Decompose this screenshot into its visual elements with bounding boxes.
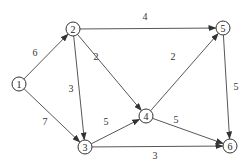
node-5: 5 xyxy=(216,21,230,35)
edge-1-3 xyxy=(24,89,80,142)
node-6: 6 xyxy=(223,139,237,153)
graph-diagram: 6743252553 123456 xyxy=(0,0,250,167)
edge-3-4 xyxy=(91,119,139,143)
edge-line xyxy=(77,34,141,110)
edge-weight-label: 6 xyxy=(33,47,38,58)
edge-2-5 xyxy=(80,28,216,29)
node-label: 6 xyxy=(228,141,233,152)
nodes-layer: 123456 xyxy=(12,21,237,154)
edge-weight-label: 3 xyxy=(69,83,74,94)
edge-weight-label: 4 xyxy=(143,11,148,22)
node-label: 4 xyxy=(144,111,149,122)
edge-weight-label: 2 xyxy=(171,51,176,62)
edge-weight-label: 3 xyxy=(153,150,158,161)
edge-line xyxy=(223,35,229,139)
node-2: 2 xyxy=(66,22,80,36)
edge-5-6 xyxy=(223,35,229,139)
edge-line xyxy=(151,34,218,111)
node-label: 1 xyxy=(17,79,22,90)
edge-weight-label: 7 xyxy=(43,116,48,127)
node-4: 4 xyxy=(139,109,153,123)
edge-4-5 xyxy=(151,34,218,111)
edge-line xyxy=(153,118,223,143)
edge-2-4 xyxy=(77,34,141,110)
edge-weight-label: 5 xyxy=(104,116,109,127)
node-3: 3 xyxy=(78,140,92,154)
edge-1-2 xyxy=(24,34,68,79)
edge-line xyxy=(91,119,139,143)
edges-layer xyxy=(24,28,230,147)
edge-weight-label: 5 xyxy=(174,114,179,125)
edge-3-6 xyxy=(92,146,223,147)
edge-weight-label: 2 xyxy=(94,51,99,62)
edge-4-6 xyxy=(153,118,223,143)
node-1: 1 xyxy=(12,77,26,91)
edge-line xyxy=(80,28,216,29)
edge-line xyxy=(24,89,80,142)
node-label: 2 xyxy=(71,24,76,35)
edge-line xyxy=(24,34,68,79)
edge-weight-label: 5 xyxy=(234,81,239,92)
edge-line xyxy=(92,146,223,147)
node-label: 3 xyxy=(83,142,88,153)
edge-2-3 xyxy=(74,36,85,140)
edge-line xyxy=(74,36,85,140)
node-label: 5 xyxy=(221,23,226,34)
